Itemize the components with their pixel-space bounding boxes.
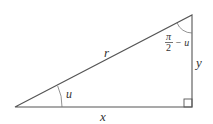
angle-arc-u — [58, 86, 62, 107]
label-y: y — [194, 55, 202, 70]
svg-text:2: 2 — [166, 42, 171, 53]
right-triangle-diagram: r x y u π 2 − u — [0, 0, 213, 124]
triangle — [15, 15, 192, 107]
label-pi-over-2-minus-u: π 2 − u — [165, 31, 189, 53]
angle-arc-top — [177, 23, 192, 33]
svg-text:− u: − u — [175, 37, 189, 48]
label-u: u — [66, 87, 72, 101]
label-x: x — [99, 109, 106, 124]
svg-text:π: π — [166, 31, 172, 42]
right-angle-marker — [184, 99, 192, 107]
